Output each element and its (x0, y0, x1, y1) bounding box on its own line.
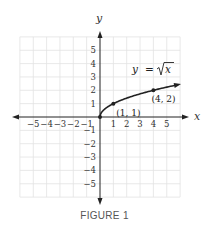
point-marker (151, 88, 155, 92)
x-axis-label: x (194, 110, 201, 123)
y-axis-label: y (95, 12, 103, 25)
function-label-radicand: x (165, 63, 171, 75)
y-tick-label: 1 (91, 99, 96, 109)
point-marker (98, 115, 102, 119)
point-label: (4, 2) (151, 94, 175, 104)
square-root-graph: −5−4−3−2−11234554321−1−2−3−4−5 x y (1, 1… (0, 0, 209, 210)
y-tick-label: −3 (83, 152, 96, 162)
function-label-equals: = (145, 63, 154, 75)
figure-caption: FIGURE 1 (0, 210, 209, 221)
point-label: (1, 1) (116, 108, 140, 118)
x-tick-label: −4 (40, 119, 53, 129)
y-tick-label: −4 (83, 165, 96, 175)
x-tick-label: 5 (164, 119, 169, 129)
point-marker (111, 102, 115, 106)
y-tick-label: −5 (83, 179, 96, 189)
y-axis-up-arrow-icon (98, 31, 103, 38)
x-axis-left-arrow-icon (12, 115, 19, 120)
y-tick-label: 5 (91, 45, 96, 55)
x-tick-label: 3 (137, 119, 142, 129)
y-tick-label: 4 (91, 59, 96, 69)
x-tick-label: 4 (151, 119, 156, 129)
x-tick-label: 2 (124, 119, 129, 129)
y-tick-label: 2 (91, 85, 96, 95)
function-label: y = x (131, 63, 174, 76)
x-tick-label: 1 (111, 119, 116, 129)
y-tick-label: −1 (83, 125, 96, 135)
x-tick-label: −3 (54, 119, 67, 129)
y-axis-down-arrow-icon (98, 198, 103, 205)
y-tick-label: 3 (91, 72, 96, 82)
x-tick-label: −2 (67, 119, 80, 129)
function-label-lhs: y (131, 63, 139, 75)
y-tick-label: −2 (83, 139, 96, 149)
x-tick-label: −5 (27, 119, 40, 129)
x-axis-right-arrow-icon (182, 115, 189, 120)
